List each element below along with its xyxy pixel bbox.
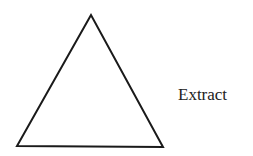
extract-label: Extract xyxy=(178,86,227,103)
diagram-canvas xyxy=(0,0,253,156)
triangle-shape xyxy=(17,15,163,147)
